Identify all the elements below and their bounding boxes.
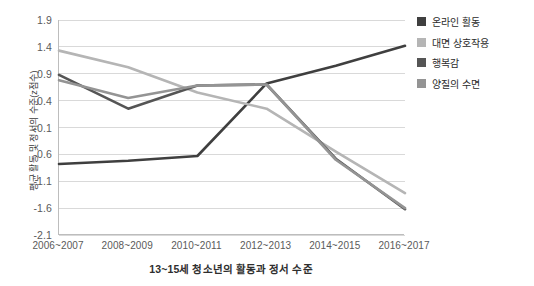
legend-label: 대면 상호작용 (432, 35, 489, 50)
series-line-2 (59, 75, 405, 209)
line-chart: 평균 활동 및 정서의 수준(z점수) 1.91.40.90.4-0.1-0.6… (0, 0, 534, 286)
y-axis-tick-label: 1.9 (8, 14, 52, 26)
y-axis-tick-label: -1.1 (8, 175, 52, 187)
legend-swatch-icon (417, 17, 426, 26)
legend-label: 온라인 활동 (432, 14, 480, 29)
x-axis-tick-label: 2010~2011 (171, 240, 222, 251)
legend-item-1[interactable]: 대면 상호작용 (417, 35, 489, 50)
y-axis-tick-label: 1.4 (8, 41, 52, 53)
legend-swatch-icon (417, 38, 426, 47)
legend-item-2[interactable]: 행복감 (417, 55, 489, 70)
legend-item-0[interactable]: 온라인 활동 (417, 14, 489, 29)
legend-label: 양질의 수면 (432, 76, 480, 91)
x-axis-tick-label: 2006~2007 (32, 240, 83, 251)
y-axis-tick-label: 0.4 (8, 95, 52, 107)
legend: 온라인 활동대면 상호작용행복감양질의 수면 (417, 14, 489, 91)
x-axis-tick-label: 2014~2015 (309, 240, 360, 251)
y-axis-tick-label: -0.6 (8, 148, 52, 160)
x-axis-tick-label: 2016~2017 (378, 240, 429, 251)
series-canvas (59, 20, 405, 235)
chart-title: 13~15세 청소년의 활동과 정서 수준 (58, 261, 404, 276)
legend-item-3[interactable]: 양질의 수면 (417, 76, 489, 91)
x-axis-tick-label: 2012~2013 (240, 240, 291, 251)
legend-swatch-icon (417, 58, 426, 67)
legend-swatch-icon (417, 79, 426, 88)
x-axis-tick-labels: 2006~20072008~20092010~20112012~20132014… (0, 240, 534, 256)
y-axis-tick-label: -0.1 (8, 122, 52, 134)
y-axis-tick-label: 0.9 (8, 68, 52, 80)
gridlines (59, 20, 405, 235)
plot-area (58, 20, 404, 235)
x-axis-tick-label: 2008~2009 (102, 240, 153, 251)
legend-label: 행복감 (432, 55, 459, 70)
y-axis-tick-label: -1.6 (8, 202, 52, 214)
